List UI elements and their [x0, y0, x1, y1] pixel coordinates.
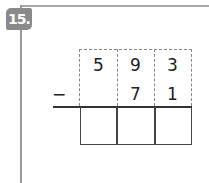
answer-divider	[116, 107, 118, 145]
minuend-ones: 3	[154, 55, 191, 75]
minuend-tens: 9	[117, 55, 154, 75]
frame-top-border	[20, 5, 209, 7]
minus-sign: −	[52, 84, 66, 104]
subtrahend-ones: 1	[154, 84, 191, 104]
frame-left-border	[20, 5, 22, 183]
minuend-hundreds: 5	[80, 55, 117, 75]
answer-boxes	[80, 107, 192, 145]
problem-number-badge: 15.	[6, 8, 32, 30]
answer-divider	[154, 107, 156, 145]
subtrahend-tens: 7	[117, 84, 154, 104]
